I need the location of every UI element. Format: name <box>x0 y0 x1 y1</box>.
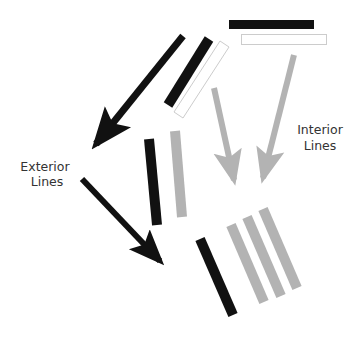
exterior-label-line1: Exterior <box>20 159 70 174</box>
exterior-lower-bar <box>200 239 233 315</box>
interior-label-line2: Lines <box>304 138 337 153</box>
exterior-horizontal-bar <box>229 20 314 29</box>
interior-arrow-right <box>263 55 294 178</box>
interior-label-line1: Interior <box>297 122 343 137</box>
exterior-arrow-lower <box>82 179 160 261</box>
exterior-vertical-bar <box>149 139 157 225</box>
interior-vertical-bar <box>175 131 182 217</box>
exterior-label-line2: Lines <box>31 174 64 189</box>
interior-arrow-left <box>214 88 234 180</box>
exterior-arrow-upper <box>96 36 183 144</box>
exterior-interior-lines-diagram: Exterior Lines Interior Lines <box>0 0 360 338</box>
interior-horizontal-bar-outline <box>242 35 327 45</box>
